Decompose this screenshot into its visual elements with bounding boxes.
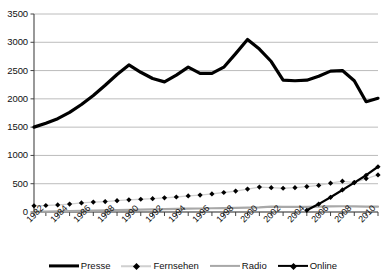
y-tick-label: 1000 — [0, 150, 28, 160]
series-marker-fernsehen — [67, 201, 72, 206]
series-marker-fernsehen — [375, 172, 380, 177]
legend-entry-presse[interactable]: Presse — [49, 261, 111, 271]
series-marker-fernsehen — [138, 197, 143, 202]
line-chart: 0500100015002000250030003500 19821984198… — [0, 0, 386, 277]
legend-swatch-icon — [278, 261, 308, 271]
series-marker-fernsehen — [209, 191, 214, 196]
series-marker-fernsehen — [126, 197, 131, 202]
legend-swatch-icon — [121, 261, 151, 271]
series-marker-fernsehen — [91, 200, 96, 205]
legend-marker-icon — [133, 262, 140, 269]
series-marker-fernsehen — [186, 193, 191, 198]
legend-entry-radio[interactable]: Radio — [210, 261, 267, 271]
legend-swatch-icon — [49, 261, 79, 271]
series-marker-fernsehen — [150, 196, 155, 201]
series-marker-fernsehen — [114, 198, 119, 203]
plot-area — [0, 0, 386, 277]
y-tick-label: 2000 — [0, 94, 28, 104]
series-line-presse — [34, 39, 378, 127]
series-marker-fernsehen — [233, 188, 238, 193]
series-marker-fernsehen — [304, 184, 309, 189]
legend-entry-fernsehen[interactable]: Fernsehen — [121, 261, 198, 271]
series-marker-fernsehen — [292, 185, 297, 190]
series-marker-fernsehen — [43, 203, 48, 208]
chart-legend: PresseFernsehenRadioOnline — [0, 256, 386, 276]
legend-label: Presse — [81, 261, 111, 271]
series-marker-fernsehen — [257, 185, 262, 190]
series-marker-fernsehen — [245, 186, 250, 191]
series-marker-fernsehen — [103, 199, 108, 204]
series-marker-fernsehen — [197, 192, 202, 197]
series-marker-fernsehen — [328, 181, 333, 186]
series-marker-fernsehen — [269, 185, 274, 190]
series-marker-fernsehen — [221, 190, 226, 195]
series-marker-fernsehen — [340, 179, 345, 184]
y-tick-label: 1500 — [0, 122, 28, 132]
legend-entry-online[interactable]: Online — [278, 261, 337, 271]
legend-label: Fernsehen — [153, 261, 198, 271]
legend-marker-icon — [290, 262, 297, 269]
legend-label: Online — [310, 261, 337, 271]
series-marker-fernsehen — [281, 186, 286, 191]
y-tick-label: 3500 — [0, 9, 28, 19]
y-tick-label: 500 — [0, 179, 28, 189]
series-line-fernsehen — [34, 175, 378, 206]
y-tick-label: 0 — [0, 207, 28, 217]
legend-swatch-icon — [210, 261, 240, 271]
legend-label: Radio — [242, 261, 267, 271]
y-tick-label: 2500 — [0, 66, 28, 76]
series-marker-fernsehen — [174, 194, 179, 199]
series-marker-fernsehen — [162, 195, 167, 200]
y-tick-label: 3000 — [0, 37, 28, 47]
